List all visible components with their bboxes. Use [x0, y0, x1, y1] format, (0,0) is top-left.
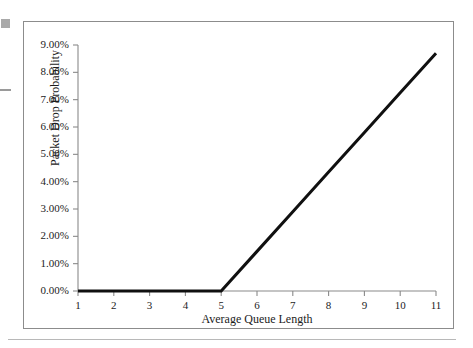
chart-plot-area	[0, 0, 473, 348]
x-axis-tick-label: 4	[174, 300, 196, 311]
y-axis-tick-label: 0.00%	[25, 285, 69, 296]
x-axis-tick-label: 2	[103, 300, 125, 311]
data-series-line	[78, 53, 436, 291]
figure-page: 0.00%1.00%2.00%3.00%4.00%5.00%6.00%7.00%…	[0, 0, 473, 348]
x-axis-tick-label: 6	[246, 300, 268, 311]
y-axis-tick-label: 2.00%	[25, 230, 69, 241]
x-axis-title: Average Queue Length	[78, 313, 436, 326]
y-axis-title-wrapper: Packet Drop Probability	[47, 13, 63, 203]
x-axis-tick-label: 10	[389, 300, 411, 311]
y-axis-tick-label: 1.00%	[25, 258, 69, 269]
y-axis-tick-label: 3.00%	[25, 203, 69, 214]
x-axis-tick-label: 3	[139, 300, 161, 311]
x-axis-tick-label: 8	[318, 300, 340, 311]
x-axis-tick-label: 9	[353, 300, 375, 311]
x-axis-tick-label: 11	[425, 300, 447, 311]
y-axis-title: Packet Drop Probability	[47, 13, 63, 203]
x-axis-tick-label: 7	[282, 300, 304, 311]
x-axis-tick-label: 5	[210, 300, 232, 311]
x-axis-tick-label: 1	[67, 300, 89, 311]
